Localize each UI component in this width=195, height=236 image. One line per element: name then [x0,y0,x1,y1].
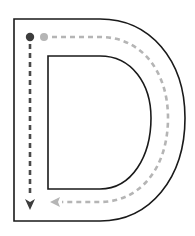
letter-d-outer-outline [14,19,185,221]
letter-tracing-canvas: D [0,0,195,236]
stroke-2-start-dot [40,33,48,41]
stroke-2-arrowhead-icon [50,197,60,207]
stroke-1-start-dot [26,33,34,41]
letter-d-inner-outline [48,56,151,189]
stroke-1-arrowhead-icon [25,199,35,210]
